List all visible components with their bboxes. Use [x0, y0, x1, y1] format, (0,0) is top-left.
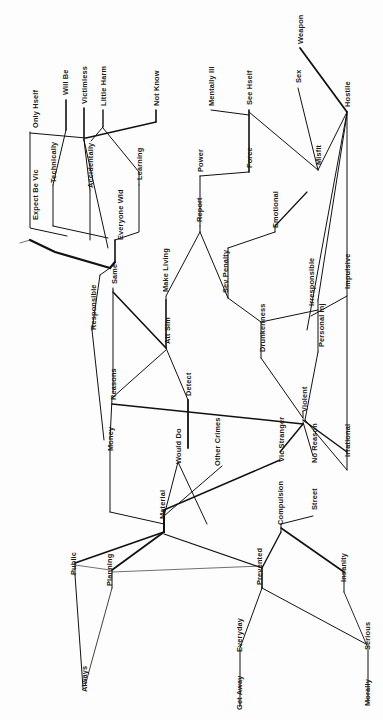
dendrogram-branch	[53, 226, 108, 238]
leaf-label-material: Material	[159, 490, 166, 519]
leaf-label-planning: Planning	[106, 554, 113, 586]
leaf-label-prevented: Prevented	[256, 548, 263, 585]
leaf-label-force: Force	[246, 147, 253, 168]
leaf-label-mentally-ill: Mentally Ill	[208, 66, 215, 106]
leaf-label-see-hself: See Hself	[246, 70, 253, 105]
dendrogram-branch	[103, 128, 139, 185]
leaf-label-power: Power	[197, 149, 204, 172]
leaf-label-irresponsible: Irresponsible	[308, 258, 315, 306]
dendrogram-branch	[228, 298, 261, 322]
leaf-label-emotional: Emotional	[272, 191, 279, 228]
leaf-label-misfit: Misfit	[315, 145, 322, 165]
leaf-label-technically: Technically	[50, 142, 57, 183]
leaf-label-little-harm: Little Harm	[100, 66, 107, 106]
dendrogram-branch	[300, 48, 347, 112]
leaf-label-not-know: Not Know	[153, 70, 160, 106]
dendrogram-branch	[30, 133, 86, 138]
leaf-label-victimless: Victimless	[81, 66, 88, 104]
dendrogram-branch	[20, 240, 30, 243]
dendrogram-branch	[164, 466, 222, 516]
dendrogram-branch	[30, 240, 110, 268]
leaf-label-responsible: Responsible	[90, 284, 97, 330]
leaf-label-same: Same	[111, 264, 118, 284]
leaf-label-learning: Learning	[136, 148, 143, 180]
leaf-label-weapon: Weapon	[297, 14, 304, 44]
leaf-label-everyday: Everyday	[236, 618, 243, 652]
leaf-label-drunkenness: Drunkenness	[259, 304, 266, 352]
leaf-label-violent: Violent	[301, 386, 308, 412]
dendrogram-branch	[249, 112, 318, 170]
leaf-label-hostile: Hostile	[344, 81, 351, 107]
leaf-label-street: Street	[311, 488, 318, 510]
leaf-label-everyone-wld: Everyone Wld	[117, 189, 124, 240]
leaf-label-sev-penalty: Sev Penalty	[222, 250, 229, 293]
dendrogram-branch	[262, 532, 281, 568]
leaf-label-morally: Morally	[364, 679, 371, 706]
leaf-label-expect-be-vic: Expect Be Vic	[32, 169, 39, 220]
dendrogram-branch	[75, 532, 164, 563]
dendrogram-branch	[228, 232, 275, 248]
dendrogram-branch	[164, 534, 262, 568]
dendrogram-branch	[112, 404, 303, 424]
leaf-label-get-away: Get Away	[236, 676, 243, 710]
dendrogram-branch	[86, 122, 156, 138]
leaf-label-would-do: Would Do	[175, 428, 182, 464]
leaf-label-report: Report	[196, 197, 203, 222]
leaf-label-money: Money	[107, 427, 114, 451]
leaf-label-accidentally: Accidentally	[87, 143, 94, 188]
dendrogram-branch	[261, 358, 303, 418]
leaf-label-impulsive: Impulsive	[344, 254, 351, 289]
leaf-label-public: Public	[70, 552, 77, 575]
leaf-label-att-sim: Att Sim	[164, 317, 171, 344]
leaf-label-always: Always	[81, 666, 88, 692]
dendrogram-branch	[200, 172, 249, 176]
dendrogram-branch	[211, 110, 249, 115]
dendrogram-branch	[100, 268, 110, 275]
dendrogram-branch	[112, 532, 164, 570]
leaf-label-no-reason: No Reason	[311, 423, 318, 463]
leaf-label-personal-inj: Personal Inj	[318, 303, 325, 347]
dendrogram-branch	[281, 528, 344, 572]
dendrogram-branch	[113, 292, 166, 348]
leaf-label-irrational: Irrational	[344, 424, 351, 457]
leaf-label-will-be: Will Be	[62, 69, 69, 95]
dendrogram-branch	[262, 588, 366, 644]
leaf-label-compulsion: Compulsion	[277, 481, 284, 525]
dendrogram-figure: Only HselfWill BeVictimlessLittle HarmNo…	[0, 0, 383, 720]
leaf-label-only-hself: Only Hself	[32, 90, 39, 128]
leaf-label-detect: Detect	[185, 373, 192, 397]
dendrogram-branch	[85, 588, 112, 686]
dendrogram-branch	[164, 460, 280, 510]
leaf-label-other-crimes: Other Crimes	[214, 417, 221, 466]
leaf-label-vic-stranger: Vic Stranger	[278, 417, 285, 462]
leaf-label-serious: Serious	[364, 622, 371, 650]
leaf-label-reasons: Reasons	[110, 368, 117, 400]
dendrogram-branch	[112, 566, 262, 572]
dendrogram-branch	[112, 350, 166, 398]
dendrogram-branch	[92, 330, 104, 440]
leaf-label-sex: Sex	[295, 69, 302, 83]
dendrogram-branch	[281, 516, 313, 524]
dendrogram-branch	[166, 232, 200, 300]
dendrogram-branches	[0, 0, 383, 720]
dendrogram-branch	[110, 512, 164, 524]
leaf-label-insanity: Insanity	[340, 553, 347, 582]
leaf-label-make-living: Make Living	[162, 248, 169, 292]
